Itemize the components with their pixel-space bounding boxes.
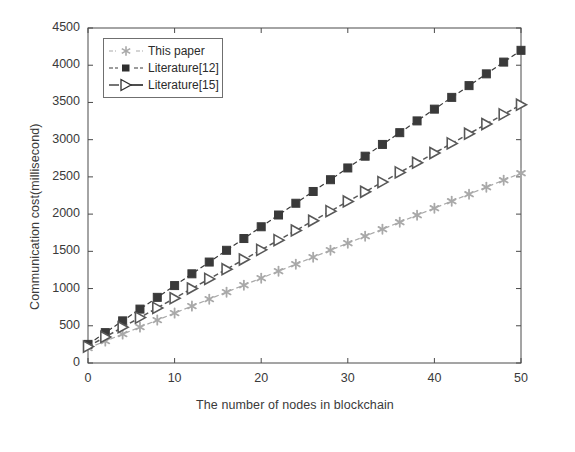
data-point-marker (171, 309, 179, 318)
x-tick-label: 20 (241, 371, 281, 385)
data-point-marker (223, 288, 231, 297)
data-point-marker (291, 225, 301, 236)
data-point-marker (188, 270, 196, 278)
x-axis-label: The number of nodes in blockchain (196, 398, 394, 412)
data-point-marker (430, 204, 438, 213)
data-point-marker (326, 246, 334, 255)
data-point-marker (257, 274, 265, 283)
data-point-marker (170, 293, 180, 304)
data-point-marker (153, 316, 161, 325)
data-point-marker (136, 305, 144, 313)
y-tick-label: 500 (38, 318, 80, 332)
legend-marker-square-icon (108, 60, 144, 76)
data-point-marker (326, 206, 336, 217)
y-tick-label: 3500 (38, 94, 80, 108)
data-point-marker (326, 176, 334, 184)
data-point-marker (153, 293, 161, 301)
chart-figure: Communication cost(millisecond) The numb… (0, 0, 575, 452)
data-point-marker (500, 58, 508, 66)
data-point-marker (275, 211, 283, 219)
data-point-marker (396, 129, 404, 137)
data-point-marker (344, 239, 352, 248)
data-point-marker (500, 176, 508, 185)
data-point-marker (275, 267, 283, 276)
data-point-marker (309, 253, 317, 262)
data-point-marker (223, 246, 231, 254)
legend-marker-triangle-icon (108, 77, 144, 93)
data-point-marker (499, 109, 509, 120)
y-tick-label: 1000 (38, 281, 80, 295)
data-point-marker (171, 282, 179, 290)
data-point-marker (239, 254, 249, 265)
data-point-marker (413, 117, 421, 125)
y-tick-label: 2500 (38, 169, 80, 183)
data-point-marker (430, 105, 438, 113)
data-point-marker (222, 264, 232, 275)
data-point-marker (395, 167, 405, 178)
data-point-marker (153, 302, 163, 313)
data-point-marker (274, 235, 284, 246)
legend-item-this-paper: This paper (108, 42, 217, 59)
data-point-marker (517, 46, 525, 54)
data-point-marker (240, 235, 248, 243)
data-point-marker (343, 196, 353, 207)
y-tick-label: 3000 (38, 132, 80, 146)
data-point-marker (205, 295, 213, 304)
x-tick-label: 0 (68, 371, 108, 385)
data-point-marker (292, 260, 300, 269)
data-point-marker (465, 82, 473, 90)
data-point-marker (309, 215, 319, 226)
data-series (84, 169, 525, 353)
data-point-marker (448, 197, 456, 206)
legend-item-literature-12: Literature[12] (108, 59, 217, 76)
y-tick-label: 4000 (38, 57, 80, 71)
data-point-marker (482, 70, 490, 78)
data-point-marker (188, 302, 196, 311)
data-point-marker (378, 225, 386, 234)
data-point-marker (396, 218, 404, 227)
data-point-marker (240, 281, 248, 290)
data-point-marker (482, 119, 492, 130)
x-tick-label: 40 (414, 371, 454, 385)
data-point-marker (413, 211, 421, 220)
x-tick-label: 50 (501, 371, 541, 385)
data-point-marker (257, 223, 265, 231)
legend-item-literature-15: Literature[15] (108, 76, 217, 93)
data-point-marker (430, 148, 440, 159)
data-point-marker (378, 177, 388, 188)
legend-label: Literature[15] (148, 78, 219, 92)
data-point-marker (413, 157, 423, 168)
y-tick-label: 4500 (38, 20, 80, 34)
data-point-marker (378, 140, 386, 148)
data-point-marker (257, 244, 267, 255)
data-point-marker (205, 273, 215, 284)
data-point-marker (135, 312, 145, 323)
data-series (84, 99, 527, 352)
y-tick-label: 2000 (38, 206, 80, 220)
data-point-marker (187, 283, 197, 294)
data-point-marker (465, 190, 473, 199)
data-point-marker (465, 128, 475, 139)
legend-label: This paper (148, 44, 205, 58)
data-point-marker (136, 323, 144, 332)
data-point-marker (448, 93, 456, 101)
data-point-marker (344, 164, 352, 172)
data-point-marker (517, 169, 525, 178)
data-point-marker (482, 183, 490, 192)
data-point-marker (361, 186, 371, 197)
data-point-marker (292, 199, 300, 207)
data-point-marker (205, 258, 213, 266)
y-tick-label: 0 (38, 355, 80, 369)
data-point-marker (309, 187, 317, 195)
x-tick-label: 10 (155, 371, 195, 385)
data-point-marker (447, 138, 457, 149)
data-point-marker (361, 152, 369, 160)
data-point-marker (361, 232, 369, 241)
legend-marker-asterisk-icon (108, 43, 144, 59)
legend-label: Literature[12] (148, 61, 219, 75)
chart-legend: This paper Literature[12] Literature[15] (103, 38, 223, 98)
x-tick-label: 30 (328, 371, 368, 385)
y-tick-label: 1500 (38, 243, 80, 257)
